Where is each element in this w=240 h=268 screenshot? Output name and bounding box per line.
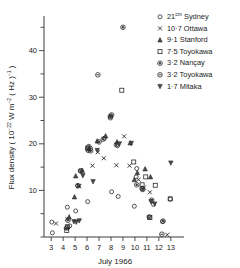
x-tick-label: 8 (109, 243, 113, 252)
x-axis-title: July 1966 (98, 257, 133, 266)
legend-label: 10·7 Ottawa (167, 24, 208, 33)
x-tick-label: 12 (155, 243, 163, 252)
x-tick-label: 13 (167, 243, 175, 252)
y-tick-label: 30 (29, 93, 37, 102)
x-tick-label: 9 (121, 243, 125, 252)
legend-label: 9·1 Stanford (167, 35, 208, 44)
x-tick-label: 7 (97, 243, 101, 252)
data-point (80, 170, 82, 172)
x-tick-label: 6 (85, 243, 89, 252)
x-tick-label: 10 (131, 243, 139, 252)
data-point (122, 26, 124, 28)
legend-marker (159, 62, 161, 64)
legend-label: 3·2 Toyokawa (167, 70, 213, 79)
x-tick-label: 11 (143, 243, 151, 252)
x-tick-label: 5 (73, 243, 77, 252)
data-point (136, 184, 138, 186)
data-point (162, 220, 164, 222)
legend-item-toyokawa-3-2[interactable]: 3·2 Toyokawa (158, 70, 214, 79)
data-point (88, 146, 90, 148)
data-point (115, 144, 117, 146)
data-point (102, 138, 104, 140)
y-tick-label: 20 (29, 139, 37, 148)
y-tick-label: 10 (29, 186, 37, 195)
legend-label: 3·2 Nançay (167, 58, 205, 67)
chart-legend: 21cm Sydney10·7 Ottawa9·1 Stanford7·5 To… (158, 11, 214, 90)
data-point (67, 219, 69, 221)
legend-label: 21cm Sydney (167, 11, 209, 21)
data-point (98, 141, 100, 143)
x-tick-label: 3 (49, 243, 53, 252)
legend-label: 7·5 Toyokawa (167, 47, 213, 56)
legend-item-toyokawa-7-5[interactable]: 7·5 Toyokawa (158, 47, 213, 56)
flux-density-scatter-chart: 10203040345678910111213 21cm Sydney10·7 … (0, 0, 240, 268)
legend-label: 1·7 Mitaka (167, 82, 202, 91)
y-tick-label: 40 (29, 46, 37, 55)
x-tick-label: 4 (61, 243, 65, 252)
data-point (77, 185, 79, 187)
